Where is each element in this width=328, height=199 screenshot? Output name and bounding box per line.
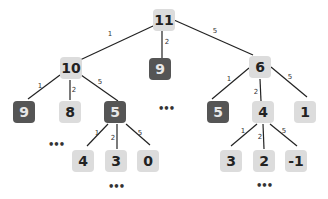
tree-node-n3l: 3 bbox=[105, 150, 127, 172]
tree-node-n4r: 4 bbox=[252, 101, 274, 123]
edge-weight-label: 5 bbox=[288, 73, 292, 81]
tree-node-n2: 2 bbox=[253, 150, 275, 172]
tree-node-n9l: 9 bbox=[13, 101, 35, 123]
edge-weight-label: 1 bbox=[95, 129, 99, 137]
tree-node-n5l: 5 bbox=[104, 101, 126, 123]
tree-node-n6: 6 bbox=[249, 56, 271, 78]
edge-n11-n6 bbox=[174, 20, 253, 55]
tree-node-n11: 11 bbox=[153, 9, 175, 31]
ellipsis-more-icon: ••• bbox=[158, 103, 174, 114]
edge-n11-n10 bbox=[80, 26, 153, 60]
tree-node-n3r: 3 bbox=[220, 150, 242, 172]
tree-node-nm1: -1 bbox=[285, 150, 307, 172]
edge-weight-label: 1 bbox=[241, 127, 245, 135]
edge-n10-n9l bbox=[28, 75, 60, 99]
edge-weight-label: 2 bbox=[111, 134, 115, 142]
tree-node-n5r: 5 bbox=[207, 101, 229, 123]
tree-node-n1: 1 bbox=[294, 101, 316, 123]
tree-node-n10: 10 bbox=[60, 57, 82, 79]
edge-n6-n5r bbox=[212, 68, 249, 99]
edge-weight-label: 1 bbox=[227, 75, 231, 83]
edge-weight-label: 5 bbox=[282, 127, 286, 135]
edge-n4r-n2 bbox=[263, 124, 264, 149]
edge-weight-label: 5 bbox=[213, 27, 217, 35]
edge-weight-label: 5 bbox=[98, 78, 102, 86]
edge-weight-label: 2 bbox=[258, 133, 262, 141]
edge-weight-label: 5 bbox=[138, 129, 142, 137]
tree-node-n0: 0 bbox=[137, 150, 159, 172]
edge-weight-label: 1 bbox=[108, 30, 112, 38]
edge-weight-label: 2 bbox=[254, 88, 258, 96]
edge-weight-label: 2 bbox=[72, 86, 76, 94]
tree-node-n4: 4 bbox=[72, 150, 94, 172]
edge-n6-n1 bbox=[271, 67, 307, 97]
tree-node-n8: 8 bbox=[59, 101, 81, 123]
edge-weight-label: 2 bbox=[165, 38, 169, 46]
ellipsis-more-icon: ••• bbox=[108, 181, 124, 192]
tree-node-n9m: 9 bbox=[149, 58, 171, 80]
edge-n6-n4r bbox=[260, 79, 261, 101]
edge-weight-label: 1 bbox=[38, 82, 42, 90]
ellipsis-more-icon: ••• bbox=[48, 139, 64, 150]
ellipsis-more-icon: ••• bbox=[256, 180, 272, 191]
